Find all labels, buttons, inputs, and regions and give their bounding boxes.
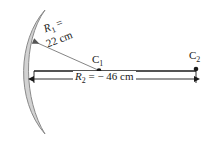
c1-label: C1 [92,54,103,69]
r2-symbol: R [75,70,82,82]
c2-label: C2 [189,50,200,65]
r1-radius-line [33,41,98,70]
optics-diagram-figure: R1 = 22 cm R2 = − 46 cm C1 C2 [0,0,220,142]
r2-label: R2 = − 46 cm [73,71,136,86]
c1-subscript: 1 [99,59,103,68]
c2-subscript: 2 [196,55,200,64]
c2-point-marker [194,67,199,72]
r2-value: = − 46 cm [86,70,134,82]
